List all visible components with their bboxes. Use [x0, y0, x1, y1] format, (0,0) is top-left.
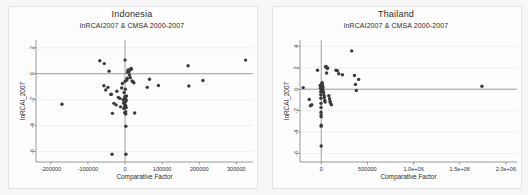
- svg-text:Comparative Factor: Comparative Factor: [116, 173, 173, 181]
- svg-text:0: 0: [29, 72, 35, 75]
- svg-text:0: 0: [293, 88, 299, 91]
- svg-text:2: 2: [29, 46, 35, 49]
- svg-text:1.0e+06: 1.0e+06: [403, 166, 423, 172]
- svg-text:500000: 500000: [358, 166, 377, 172]
- svg-text:-6: -6: [29, 149, 35, 154]
- svg-text:-2: -2: [293, 108, 299, 113]
- svg-text:-4: -4: [29, 123, 35, 128]
- svg-text:lnRCAI_2007: lnRCAI_2007: [19, 82, 27, 120]
- svg-text:-4: -4: [293, 130, 299, 135]
- svg-text:0: 0: [320, 166, 323, 172]
- svg-text:1.5e+06: 1.5e+06: [450, 166, 470, 172]
- svg-text:lnRCAI_2007: lnRCAI_2007: [283, 82, 291, 120]
- scatter-plot-right: 420-2-4-605000001.0e+061.5e+062.0e+06Com…: [264, 0, 528, 195]
- svg-text:-2: -2: [29, 97, 35, 102]
- figure-container: Indonesia lnRCAI2007 & CMSA 2000-2007 20…: [0, 0, 528, 195]
- svg-text:300000: 300000: [227, 166, 246, 172]
- svg-text:2.0e+06: 2.0e+06: [496, 166, 516, 172]
- chart-panel-thailand: Thailand lnRCAI2007 & CMSA 2000-2007 420…: [264, 0, 528, 195]
- svg-text:200000: 200000: [190, 166, 209, 172]
- svg-text:-200000: -200000: [41, 166, 62, 172]
- svg-text:2: 2: [293, 66, 299, 69]
- svg-text:-100000: -100000: [78, 166, 99, 172]
- svg-text:Comparative Factor: Comparative Factor: [380, 173, 437, 181]
- svg-text:0: 0: [123, 166, 126, 172]
- svg-text:100000: 100000: [153, 166, 172, 172]
- svg-text:-6: -6: [293, 151, 299, 156]
- svg-text:4: 4: [293, 45, 299, 48]
- scatter-plot-left: 20-2-4-6-200000-100000010000020000030000…: [0, 0, 264, 195]
- chart-panel-indonesia: Indonesia lnRCAI2007 & CMSA 2000-2007 20…: [0, 0, 264, 195]
